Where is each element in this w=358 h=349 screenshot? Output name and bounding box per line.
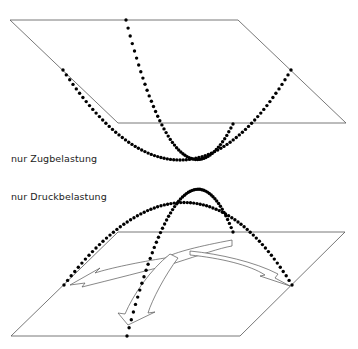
- dotted-force-lines: [61, 18, 293, 337]
- compression-arrows: [70, 240, 290, 325]
- bottom-plane: [11, 232, 345, 336]
- label-compression-only: nur Druckbelastung: [11, 191, 107, 202]
- diagram-canvas: nur Zugbelastung nur Druckbelastung: [0, 0, 358, 349]
- diagram-svg: [0, 0, 358, 349]
- arrow-to-right: [190, 251, 290, 286]
- label-tension-only: nur Zugbelastung: [11, 153, 97, 164]
- top-plane: [10, 20, 346, 123]
